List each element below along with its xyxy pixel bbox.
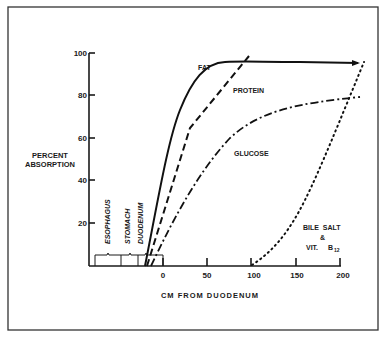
label-ampersand: & <box>320 234 325 241</box>
y-tick-60: 60 <box>78 134 87 143</box>
label-glucose: GLUCOSE <box>234 150 269 157</box>
y-tick-100: 100 <box>74 49 88 58</box>
label-b: B <box>328 244 333 251</box>
region-label-stomach: STOMACH <box>124 208 131 244</box>
y-tick-20: 20 <box>78 219 87 228</box>
label-fat: FAT <box>198 64 211 71</box>
x-tick-100: 100 <box>247 271 261 280</box>
x-axis-label: CM FROM DUODENUM <box>161 291 259 300</box>
label-b-subscript: 12 <box>334 247 340 253</box>
label-protein: PROTEIN <box>233 87 264 94</box>
y-axis-label-line1: PERCENT <box>32 151 68 160</box>
x-tick-0: 0 <box>161 271 166 280</box>
x-tick-150: 150 <box>290 271 304 280</box>
region-label-esophagus: ESOPHAGUS <box>104 199 111 244</box>
x-tick-200: 200 <box>336 271 350 280</box>
region-label-duodenum: DUODENUM <box>137 203 144 244</box>
label-bile-salt: BILE SALT <box>303 224 341 231</box>
label-vit: VIT. <box>306 244 318 251</box>
y-tick-80: 80 <box>78 91 87 100</box>
y-tick-40: 40 <box>78 176 87 185</box>
absorption-chart: 100 80 60 40 20 PERCENT ABSORPTION 0 50 … <box>0 0 383 347</box>
y-axis-label-line2: ABSORPTION <box>25 160 75 169</box>
x-tick-50: 50 <box>203 271 212 280</box>
